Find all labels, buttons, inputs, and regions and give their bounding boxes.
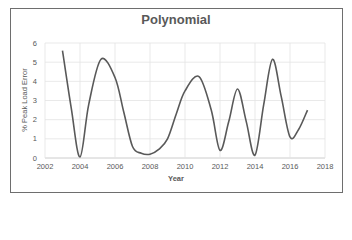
y-tick-label: 4 [33,77,37,86]
x-axis-ticks: 200220042006200820102012201420162018 [37,162,334,171]
x-tick-label: 2004 [72,162,89,171]
x-tick-label: 2018 [317,162,334,171]
x-tick-label: 2008 [142,162,159,171]
y-tick-label: 6 [33,39,37,48]
y-axis-ticks: 0123456 [33,39,37,163]
y-tick-label: 1 [33,134,37,143]
x-tick-label: 2006 [107,162,124,171]
x-tick-label: 2014 [247,162,264,171]
x-tick-label: 2016 [282,162,299,171]
gridlines [45,43,325,158]
x-axis-label: Year [0,174,352,183]
y-tick-label: 2 [33,115,37,124]
y-tick-label: 5 [33,58,37,67]
x-tick-label: 2012 [212,162,229,171]
x-tick-label: 2010 [177,162,194,171]
x-tick-label: 2002 [37,162,54,171]
y-tick-label: 3 [33,96,37,105]
y-axis-label: % Peak Load Error [20,68,29,131]
